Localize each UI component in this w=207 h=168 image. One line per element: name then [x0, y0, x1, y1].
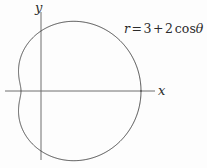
polar-plot-figure: y x r=3+2cosθ [0, 0, 207, 168]
y-axis-label: y [35, 1, 42, 14]
equation-theta: θ [196, 21, 204, 36]
equation-equals: = [130, 21, 143, 36]
equation-plus: + [151, 21, 164, 36]
equation-annotation: r=3+2cosθ [124, 23, 203, 36]
x-axis-label: x [158, 84, 165, 97]
equation-coefficient: 2 [165, 21, 173, 36]
equation-cos: cos [173, 21, 196, 36]
